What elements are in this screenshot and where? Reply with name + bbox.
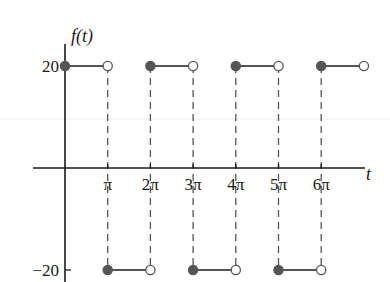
x-tick-label: 4π — [227, 175, 245, 194]
x-tick-label: 2π — [142, 175, 160, 194]
closed-endpoint — [189, 265, 198, 274]
open-endpoint — [189, 61, 198, 70]
open-endpoint — [274, 61, 283, 70]
closed-endpoint — [103, 265, 112, 274]
closed-endpoint — [60, 61, 69, 70]
open-endpoint — [231, 265, 240, 274]
closed-endpoint — [146, 61, 155, 70]
x-tick-label: 5π — [270, 175, 288, 194]
open-endpoint — [103, 61, 112, 70]
y-axis-label: f(t) — [71, 26, 93, 47]
y-tick-label: −20 — [32, 261, 59, 280]
closed-endpoint — [231, 61, 240, 70]
open-endpoint — [146, 265, 155, 274]
closed-endpoint — [317, 61, 326, 70]
x-tick-label: 3π — [185, 175, 203, 194]
open-endpoint — [317, 265, 326, 274]
closed-endpoint — [274, 265, 283, 274]
open-endpoint — [359, 61, 368, 70]
x-tick-label: π — [103, 175, 112, 194]
square-wave-chart: π2π3π4π5π6π 20−20 f(t) t — [0, 0, 390, 282]
y-tick-label: 20 — [42, 57, 59, 76]
x-tick-label: 6π — [313, 175, 331, 194]
x-axis-label: t — [366, 164, 372, 184]
